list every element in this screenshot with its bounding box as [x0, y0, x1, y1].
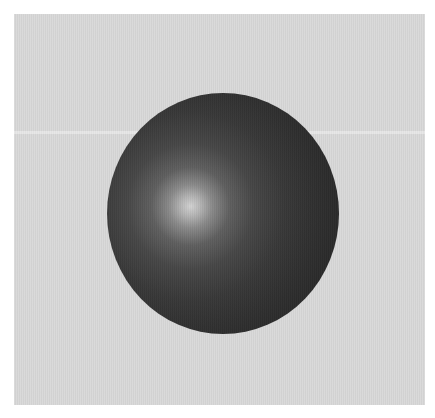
shaded-sphere [107, 93, 339, 334]
